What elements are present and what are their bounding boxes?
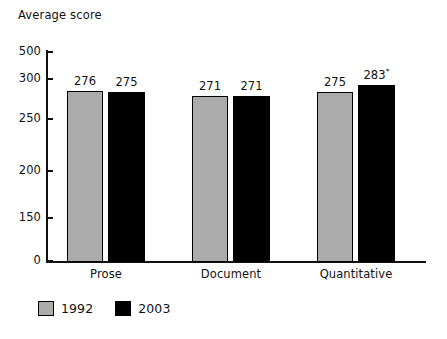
legend-item-2003[interactable]: 2003 [115, 301, 170, 316]
y-tick-mark [46, 78, 53, 80]
bar-quantitative-1992 [317, 92, 353, 262]
bar-value-prose-2003: 275 [100, 75, 153, 89]
y-tick-label: 200 [19, 163, 41, 177]
legend-item-1992[interactable]: 1992 [38, 301, 93, 316]
category-label-document: Document [171, 267, 291, 281]
y-tick-mark [46, 170, 53, 172]
category-label-prose: Prose [46, 267, 166, 281]
category-label-quantitative: Quantitative [296, 267, 416, 281]
y-tick-label: 0 [34, 253, 41, 267]
bar-quantitative-2003 [358, 85, 395, 262]
y-tick-mark [46, 217, 53, 219]
y-tick-label-box: 250 [0, 111, 41, 125]
bar-document-2003 [233, 96, 270, 262]
legend-label: 1992 [61, 301, 93, 316]
bar-prose-2003 [108, 92, 145, 262]
y-tick-mark [46, 260, 53, 262]
y-axis-line [46, 50, 48, 263]
y-tick-label-box: 200 [0, 163, 41, 177]
chart-legend: 19922003 [38, 301, 192, 316]
legend-swatch-icon [115, 301, 131, 316]
y-tick-label-box: 150 [0, 210, 41, 224]
y-tick-label: 150 [19, 210, 41, 224]
y-tick-mark [46, 51, 53, 53]
y-tick-label-box: 0 [0, 253, 41, 267]
y-tick-label-box: 300 [0, 71, 41, 85]
y-tick-mark [46, 118, 53, 120]
bar-prose-1992 [67, 91, 103, 262]
y-tick-label: 500 [19, 44, 41, 58]
bar-chart-figure: Average score 5003002502001500 276275271… [0, 0, 447, 339]
y-tick-label: 300 [19, 71, 41, 85]
bar-value-document-2003: 271 [225, 79, 278, 93]
legend-swatch-icon [38, 301, 54, 316]
legend-label: 2003 [138, 301, 170, 316]
bar-document-1992 [192, 96, 228, 262]
y-axis-title: Average score [18, 8, 102, 22]
significance-marker: * [386, 67, 390, 76]
y-tick-label-box: 500 [0, 44, 41, 58]
bar-value-quantitative-2003: 283* [350, 68, 403, 82]
y-tick-label: 250 [19, 111, 41, 125]
